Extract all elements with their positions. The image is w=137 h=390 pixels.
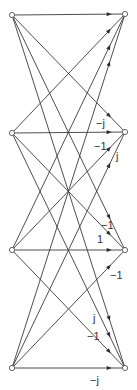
node-x0 (9, 12, 14, 17)
edge-weight-label: j (115, 150, 118, 162)
node-x1 (9, 130, 14, 135)
edge-weight-label: −1 (87, 330, 100, 342)
edge-weight-label: −1 (94, 140, 107, 152)
edge-weight-label: −j (90, 374, 99, 386)
arrowhead-icon (106, 163, 110, 168)
edge-weight-label: −j (96, 117, 105, 129)
arrowhead-icon (107, 130, 112, 134)
edge-weight-label: j (92, 312, 95, 324)
arrowhead-icon (106, 332, 110, 337)
node-X3 (122, 365, 127, 370)
edges-group (12, 14, 125, 368)
edge-weight-label: 1 (97, 233, 103, 245)
node-X2 (122, 247, 127, 252)
node-X1 (122, 129, 127, 134)
node-x3 (9, 365, 14, 370)
arrowheads-group (106, 12, 112, 370)
arrowhead-icon (107, 366, 112, 370)
node-X0 (122, 11, 127, 16)
edge-weight-label: −1 (110, 269, 123, 281)
signal-flow-graph: −j−1j−11−1j−1−j (0, 0, 137, 390)
arrowhead-icon (107, 248, 112, 252)
node-x2 (9, 247, 14, 252)
labels-group: −j−1j−11−1j−1−j (87, 117, 123, 386)
arrowhead-icon (107, 12, 112, 16)
arrowhead-icon (107, 316, 111, 321)
arrowhead-icon (106, 45, 110, 50)
arrowhead-icon (107, 61, 111, 66)
edge-weight-label: −1 (101, 219, 114, 231)
